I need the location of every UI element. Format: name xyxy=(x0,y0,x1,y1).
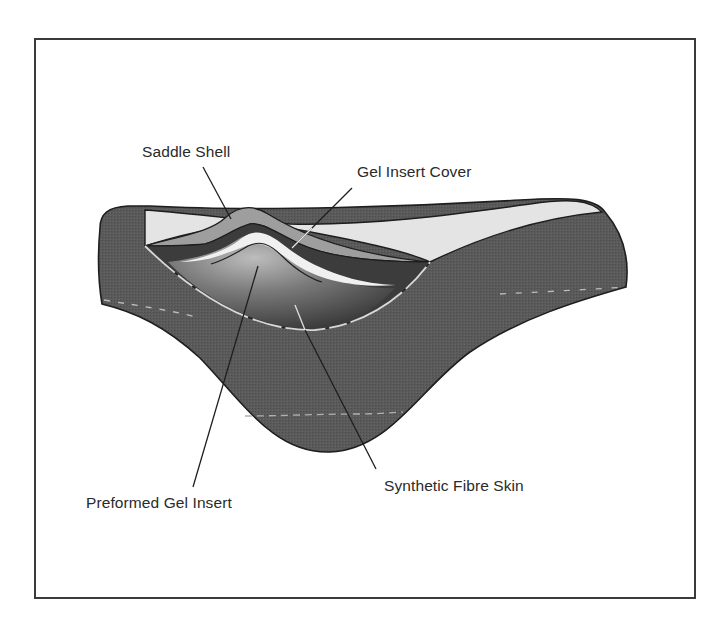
saddle-diagram xyxy=(0,0,722,636)
label-saddle-shell: Saddle Shell xyxy=(142,143,230,161)
label-preformed-gel-insert: Preformed Gel Insert xyxy=(86,494,232,512)
label-gel-insert-cover: Gel Insert Cover xyxy=(357,163,471,181)
label-synthetic-fibre-skin: Synthetic Fibre Skin xyxy=(384,477,524,495)
